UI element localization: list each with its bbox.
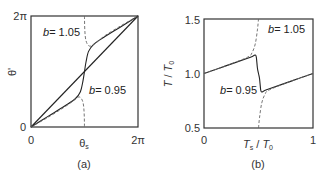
panel-b-ytick-top: 1.5: [185, 14, 200, 26]
panel-a-ytick-bottom: 0: [20, 121, 26, 133]
panel-b-series-b-1-05-upper-branch: [259, 74, 314, 129]
figure: 2π 0 0 2π θs θ' (a) b= 1.05 b= 0.95 1.5 …: [0, 0, 323, 184]
panel-a-ylabel: θ': [6, 68, 18, 76]
panel-a-annotation-b095: b= 0.95: [89, 84, 126, 96]
panel-b-series-b-1-05-lower-branch: [204, 19, 259, 74]
panel-b-ytick-bottom: 0.5: [185, 122, 200, 134]
panel-a-xtick-right: 2π: [131, 134, 145, 146]
panel-b-annotation-b105: b= 1.05: [268, 23, 305, 35]
panel-a-caption: (a): [77, 158, 90, 170]
panel-b-xtick-left: 0: [201, 134, 207, 146]
panel-b-series: [204, 19, 313, 128]
panel-a: 2π 0 0 2π θs θ' (a) b= 1.05 b= 0.95: [6, 10, 145, 170]
panel-a-xtick-left: 0: [28, 134, 34, 146]
panel-a-annotation-b105: b= 1.05: [43, 26, 80, 38]
panel-b-annotation-b095: b= 0.95: [220, 84, 257, 96]
panel-b-xlabel: Ts / T0: [243, 138, 273, 151]
panel-b-xtick-right: 1: [310, 134, 316, 146]
panel-b-ytick-mid: 1.0: [185, 68, 200, 80]
panel-a-ytick-top: 2π: [13, 10, 27, 22]
panel-b: 1.5 1.0 0.5 0 1 Ts / T0 T / T0 (b) b= 1.…: [162, 14, 316, 170]
panel-a-xlabel: θs: [79, 137, 89, 150]
panel-b-ylabel: T / T0: [162, 61, 175, 88]
panel-b-caption: (b): [251, 158, 264, 170]
